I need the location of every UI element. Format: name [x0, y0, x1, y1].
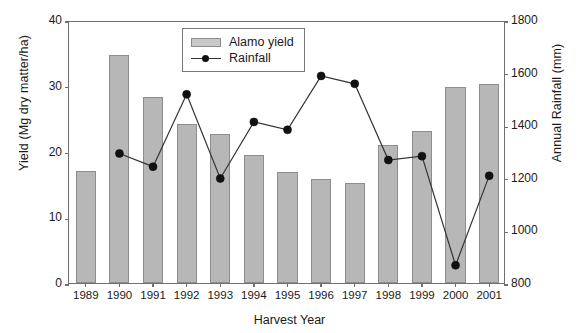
rainfall-data-point: [485, 172, 493, 180]
y-axis-left-tick-label: 20: [49, 145, 62, 159]
y-axis-right-tick-label: 1000: [511, 223, 538, 237]
chart-legend: Alamo yield Rainfall: [182, 28, 305, 72]
rainfall-data-point: [183, 90, 191, 98]
chart-figure: Yield (Mg dry matter/ha) Annual Rainfall…: [0, 0, 579, 333]
y-axis-left-tick-label: 0: [55, 276, 62, 290]
rainfall-data-point: [351, 80, 359, 88]
x-axis-tick-label: 2001: [467, 289, 511, 301]
y-axis-right-tick-label: 1800: [511, 13, 538, 27]
x-axis-title: Harvest Year: [0, 313, 579, 327]
line-marker-swatch-icon: [191, 54, 221, 63]
rainfall-data-point: [384, 156, 392, 164]
y-axis-left-title: Yield (Mg dry matter/ha): [17, 0, 31, 213]
rainfall-data-point: [452, 261, 460, 269]
rainfall-data-point: [317, 72, 325, 80]
y-axis-right-tick-label: 1200: [511, 171, 538, 185]
rainfall-data-point: [115, 150, 123, 158]
rainfall-data-point: [418, 152, 426, 160]
legend-item-rainfall: Rainfall: [191, 50, 294, 66]
y-axis-left-tick-label: 30: [49, 79, 62, 93]
plot-area: 010203040 80010001200140016001800 198919…: [68, 21, 505, 284]
y-axis-left-tick-label: 10: [49, 210, 62, 224]
legend-label-rainfall: Rainfall: [229, 51, 271, 65]
legend-item-alamo-yield: Alamo yield: [191, 34, 294, 50]
y-axis-right-tick-label: 800: [511, 276, 531, 290]
y-axis-right-title: Annual Rainfall (mm): [550, 0, 564, 213]
rainfall-data-point: [250, 118, 258, 126]
rainfall-data-point: [284, 126, 292, 134]
rainfall-line: [119, 76, 489, 265]
rainfall-data-point: [216, 174, 224, 182]
y-axis-right-tick-label: 1600: [511, 66, 538, 80]
y-axis-right-tick-label: 1400: [511, 118, 538, 132]
bar-swatch-icon: [191, 38, 221, 47]
legend-label-alamo-yield: Alamo yield: [229, 35, 294, 49]
y-axis-left-tick-label: 40: [49, 13, 62, 27]
rainfall-data-point: [149, 163, 157, 171]
